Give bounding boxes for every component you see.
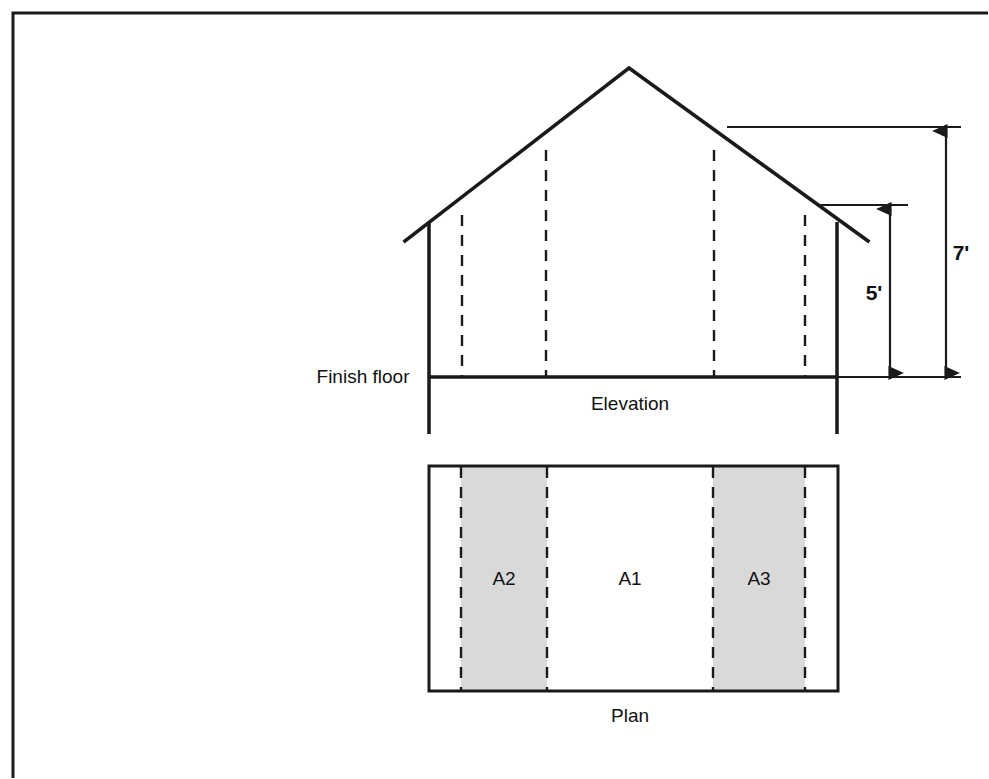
plan-view-label: Plan (611, 706, 649, 725)
diagram-canvas: Finish floor Elevation 7' 5' A2 A1 A3 Pl… (0, 0, 989, 779)
elevation-view (405, 68, 961, 434)
dimension-label-5ft: 5' (866, 282, 883, 303)
plan-area-label-a1: A1 (618, 569, 641, 588)
plan-area-label-a2: A2 (492, 569, 515, 588)
plan-area-label-a3: A3 (747, 569, 770, 588)
architectural-drawing (0, 0, 989, 779)
elevation-view-label: Elevation (591, 394, 669, 413)
finish-floor-label: Finish floor (317, 367, 410, 386)
roof-line (405, 68, 868, 241)
dimension-label-7ft: 7' (953, 242, 970, 263)
